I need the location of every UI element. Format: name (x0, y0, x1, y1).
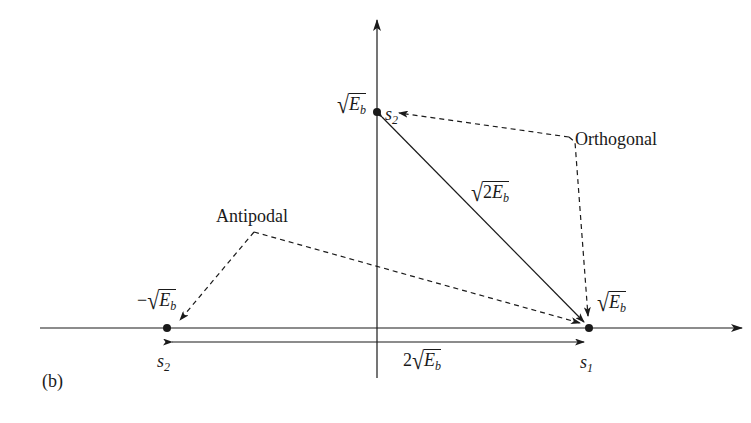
antipodal-pointer (180, 232, 254, 320)
s2-left-value-label: −√Eb (137, 288, 176, 310)
signal-point-s2-top (373, 108, 381, 116)
orthogonal-pointer (569, 137, 588, 316)
s2-top-name-label: s2 (385, 105, 398, 123)
panel-label: (b) (42, 372, 63, 390)
signal-point-s2-left (163, 324, 171, 332)
antipodal-annotation: Antipodal (216, 207, 288, 225)
signal-constellation-diagram (0, 0, 751, 423)
s2-top-value-label: √Eb (337, 92, 366, 114)
antipodal-pointer (254, 232, 580, 323)
s1-value-label: √Eb (597, 290, 626, 312)
antipodal-distance-label: 2√Eb (403, 348, 441, 370)
orthogonal-distance-arrow (382, 117, 584, 322)
signal-point-s1 (585, 324, 593, 332)
s1-name-label: s1 (580, 353, 593, 371)
s2-left-name-label: s2 (157, 352, 170, 370)
orthogonal-pointer (399, 113, 569, 137)
orthogonal-annotation: Orthogonal (575, 130, 657, 148)
orthogonal-distance-label: √2Eb (471, 180, 509, 202)
